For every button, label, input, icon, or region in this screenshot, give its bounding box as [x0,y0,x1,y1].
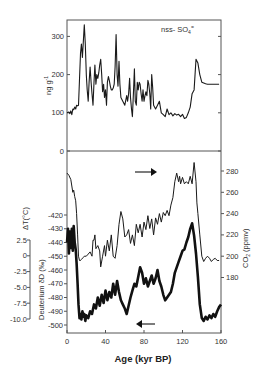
y-tick-label: 300 [51,32,64,41]
x-tick-label: 120 [176,337,189,346]
co2-tick-label: 220 [226,230,239,239]
deuterium-tick-label: -450 [48,252,63,261]
sulfate-y-axis: 0100200300 [51,32,221,156]
co2-tick-label: 180 [226,273,239,282]
co2-arrow-right-icon [135,168,157,176]
ice-core-figure: 0100200300 nss- SO4= ng g-1 180200220240… [0,0,266,379]
deuterium-tick-label: -490 [48,307,63,316]
delta-t-tick-label: 2.5 [17,236,27,245]
x-axis: 04080120160 [65,330,227,346]
deuterium-arrow-left-icon [136,320,155,328]
deuterium-tick-label: -470 [48,279,63,288]
x-tick-label: 80 [140,337,148,346]
delta-t-tick-label: -5.0 [14,283,27,292]
deuterium-tick-label: -500 [48,321,63,330]
x-tick-label: 160 [215,337,228,346]
x-tick-label: 40 [101,337,109,346]
co2-tick-label: 240 [226,209,239,218]
delta-t-tick-label: -2.5 [14,267,27,276]
co2-tick-label: 260 [226,188,239,197]
sulfate-annotation: nss- SO4= [161,24,194,35]
x-axis-label: Age (kyr BP) [114,353,171,364]
co2-axis-label: CO2 (ppmv) [241,228,251,268]
deuterium-series-line [67,223,221,321]
delta-t-tick-label: 0 [23,251,27,260]
co2-tick-label: 280 [226,167,239,176]
delta-t-axis-label: ΔT(°C) [21,206,30,230]
sulfate-series-line [67,25,219,119]
deuterium-tick-label: -480 [48,293,63,302]
deuterium-tick-label: -440 [48,238,63,247]
delta-t-tick-label: -7.5 [14,299,27,308]
deuterium-tick-label: -460 [48,266,63,275]
delta-t-tick-label: -10.0 [10,315,27,324]
deuterium-axis-label: Deuterium δD (‰) [37,259,46,320]
co2-tick-label: 200 [226,252,239,261]
y-tick-label: 100 [51,108,64,117]
x-tick-label: 0 [65,337,69,346]
deuterium-tick-label: -430 [48,224,63,233]
deuterium-tick-label: -420 [48,211,63,220]
y-tick-label: 0 [60,147,64,156]
y-tick-label: 200 [51,70,64,79]
